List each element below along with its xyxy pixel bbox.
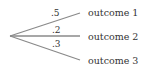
branch-3-probability: .3 — [52, 40, 61, 49]
branch-1-line — [10, 13, 80, 36]
probability-tree: .5 .2 .3 outcome 1 outcome 2 outcome 3 — [0, 0, 141, 69]
branch-3-line — [10, 36, 80, 60]
branch-2-probability: .2 — [52, 26, 61, 35]
outcome-2-label: outcome 2 — [88, 32, 138, 42]
outcome-3-label: outcome 3 — [88, 56, 138, 66]
outcome-1-label: outcome 1 — [88, 8, 138, 18]
branch-1-probability: .5 — [51, 9, 60, 18]
